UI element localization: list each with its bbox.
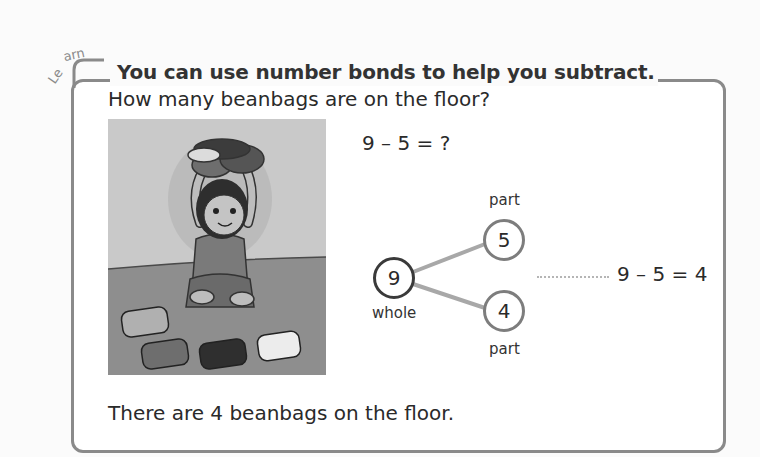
lesson-title: You can use number bonds to help you sub… [117,60,655,84]
part-value-bottom: 4 [498,299,511,323]
part-circle-top: 5 [483,219,525,261]
dotted-leader-line [537,276,609,278]
answer-sentence: There are 4 beanbags on the floor. [108,401,454,425]
svg-text:arn: arn [62,48,86,64]
beanbag-illustration [108,119,326,375]
whole-label: whole [372,304,416,322]
whole-circle: 9 [373,257,415,299]
learn-tag-icon: Le arn [44,48,104,88]
part-label-bottom: part [489,340,520,358]
part-value-top: 5 [498,228,511,252]
whole-value: 9 [388,266,401,290]
part-circle-bottom: 4 [483,290,525,332]
part-label-top: part [489,191,520,209]
page: Le arn You can use number bonds to help … [0,0,760,457]
equation-question: 9 – 5 = ? [362,131,450,155]
svg-text:Le: Le [45,66,66,87]
equation-answer: 9 – 5 = 4 [617,262,707,286]
question-text: How many beanbags are on the floor? [108,87,490,111]
number-bond-diagram: part 5 9 whole 4 part [355,180,555,370]
